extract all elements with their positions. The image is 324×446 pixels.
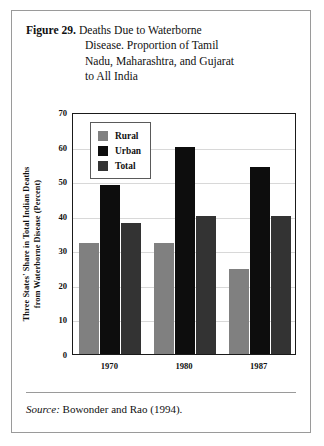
y-tick-label-60: 60: [58, 143, 67, 153]
legend-swatch-rural: [98, 131, 108, 141]
legend-item-urban: Urban: [98, 143, 141, 158]
y-tick-label-20: 20: [58, 281, 67, 291]
figure-title-line-2: Disease. Proportion of Tamil: [26, 38, 298, 53]
bar-urban-1980: [175, 147, 195, 354]
legend-label-total: Total: [115, 161, 136, 171]
bar-urban-1987: [250, 167, 270, 354]
figure-title: Figure 29. Deaths Due to Waterborne Dise…: [26, 23, 298, 85]
x-tick-label-1980: 1980: [147, 361, 222, 371]
y-tick-label-30: 30: [58, 246, 67, 256]
y-axis-title: Three States' Share in Total Indian Deat…: [22, 119, 46, 369]
legend-swatch-urban: [98, 146, 108, 156]
y-tick-label-10: 10: [58, 315, 67, 325]
source-note: Source: Bowonder and Rao (1994).: [26, 403, 182, 415]
y-tick-label-70: 70: [58, 108, 67, 118]
x-tick-label-1970: 1970: [72, 361, 147, 371]
figure-title-line-1: Deaths Due to Waterborne: [79, 24, 202, 37]
source-citation: Bowonder and Rao (1994).: [63, 403, 183, 415]
bar-total-1980: [196, 216, 216, 354]
bar-rural-1970: [79, 243, 99, 354]
y-tick-label-40: 40: [58, 212, 67, 222]
legend-swatch-total: [98, 161, 108, 171]
bar-group-1980: [148, 114, 223, 354]
bar-group-1987: [222, 114, 296, 354]
source-divider: [26, 392, 296, 393]
y-axis-title-line-2: from Waterborne Disease (Percent): [33, 119, 44, 369]
figure-title-line-3: Nadu, Maharashtra, and Gujarat: [26, 54, 298, 69]
y-tick-label-0: 0: [63, 350, 67, 360]
legend-label-urban: Urban: [115, 146, 141, 156]
plot-wrapper: 010203040506070 197019801987 Rural Urban…: [72, 113, 296, 355]
chart-area: Three States' Share in Total Indian Deat…: [26, 107, 298, 375]
bar-total-1987: [271, 216, 291, 354]
bar-rural-1980: [154, 243, 174, 354]
source-label: Source:: [26, 403, 60, 415]
legend-label-rural: Rural: [115, 131, 138, 141]
bar-urban-1970: [100, 185, 120, 354]
figure-title-line-4: to All India: [26, 69, 298, 84]
chart-legend: Rural Urban Total: [90, 122, 151, 179]
legend-item-total: Total: [98, 158, 141, 173]
y-tick-label-50: 50: [58, 177, 67, 187]
y-axis-title-line-1: Three States' Share in Total Indian Deat…: [22, 119, 33, 369]
figure-frame: Figure 29. Deaths Due to Waterborne Dise…: [11, 10, 311, 433]
x-tick-label-1987: 1987: [221, 361, 296, 371]
bar-total-1970: [121, 223, 141, 354]
bar-rural-1987: [229, 269, 249, 354]
legend-item-rural: Rural: [98, 128, 141, 143]
figure-number: Figure 29.: [26, 24, 76, 37]
